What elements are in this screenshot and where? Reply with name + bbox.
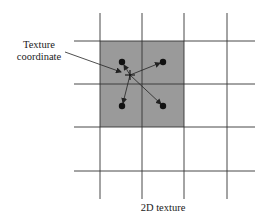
texel-dot: [160, 103, 166, 109]
texture-coordinate-label-line2: coordinate: [17, 51, 62, 62]
texel-dot: [119, 103, 125, 109]
texture-sampling-diagram: Texture coordinate 2D texture: [0, 0, 265, 219]
texel-dot: [119, 59, 125, 65]
caption-2d-texture: 2D texture: [141, 202, 186, 213]
texture-coordinate-label-line1: Texture: [23, 39, 55, 50]
texel-dot: [160, 59, 166, 65]
